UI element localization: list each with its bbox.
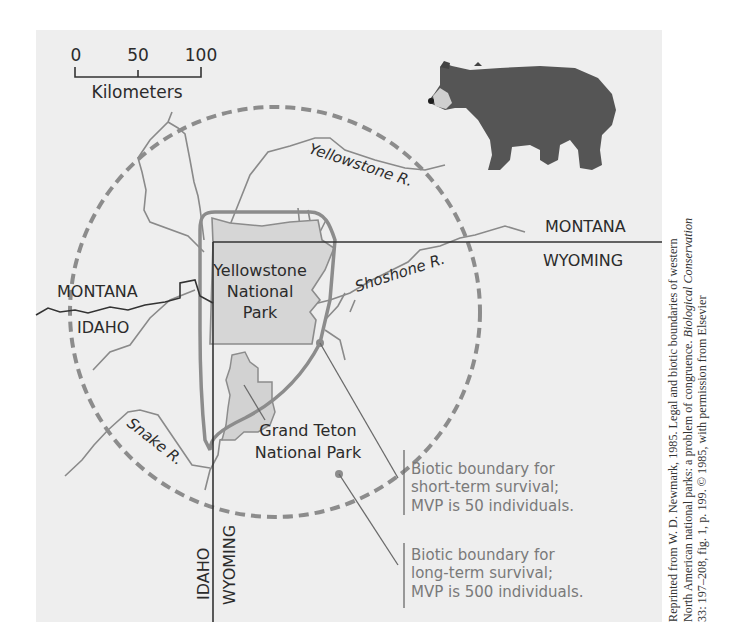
svg-text:National: National <box>227 282 294 301</box>
label-idaho-west: IDAHO <box>77 318 129 337</box>
citation-credit: Reprinted from W. D. Newmark, 1985. Lega… <box>666 22 710 622</box>
scale-bar: 0 50 100 Kilometers <box>71 45 218 102</box>
label-grand-teton-park: Grand Teton National Park <box>255 421 362 462</box>
legend-long-term: Biotic boundary for long-term survival; … <box>411 546 584 601</box>
label-snake-river: Snake R. <box>124 414 187 469</box>
svg-text:Biotic boundary for: Biotic boundary for <box>411 460 555 478</box>
svg-text:MVP is 50 individuals.: MVP is 50 individuals. <box>411 497 574 515</box>
svg-text:Park: Park <box>243 303 278 322</box>
yellowstone-park-shape <box>210 218 334 344</box>
label-wyoming-east: WYOMING <box>543 251 623 270</box>
legend-short-term: Biotic boundary for short-term survival;… <box>411 460 574 515</box>
label-montana-west: MONTANA <box>57 282 138 301</box>
svg-text:0: 0 <box>71 45 82 65</box>
grizzly-bear-icon <box>428 61 616 170</box>
svg-text:100: 100 <box>185 45 217 65</box>
svg-text:MVP is 500 individuals.: MVP is 500 individuals. <box>411 583 584 601</box>
svg-text:long-term survival;: long-term survival; <box>411 564 553 582</box>
svg-text:Yellowstone: Yellowstone <box>212 261 307 280</box>
svg-text:National Park: National Park <box>255 443 362 462</box>
svg-text:short-term survival;: short-term survival; <box>411 478 559 496</box>
yellowstone-map: 0 50 100 Kilometers <box>0 0 729 639</box>
svg-text:Grand Teton: Grand Teton <box>259 421 356 440</box>
label-montana-east: MONTANA <box>545 217 626 236</box>
label-wyoming-south: WYOMING <box>220 525 239 605</box>
label-idaho-south: IDAHO <box>194 548 213 600</box>
svg-text:Kilometers: Kilometers <box>92 82 183 102</box>
label-shoshone-river: Shoshone R. <box>353 250 447 296</box>
svg-text:50: 50 <box>127 45 149 65</box>
svg-text:Biotic boundary for: Biotic boundary for <box>411 546 555 564</box>
